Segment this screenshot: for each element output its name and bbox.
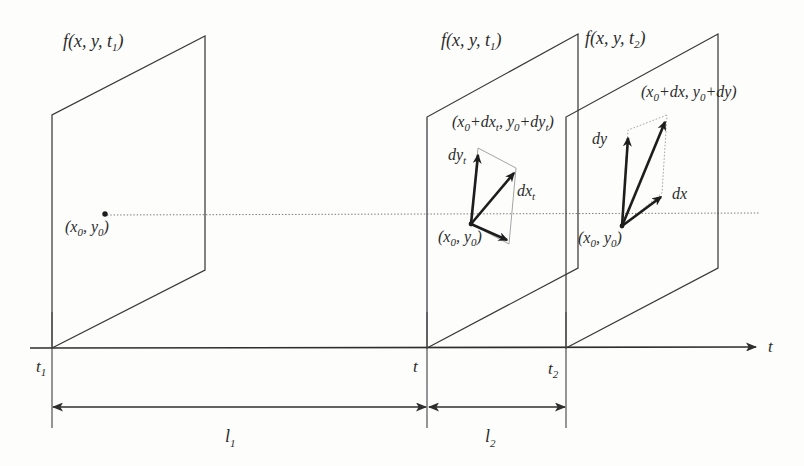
plane-t-group (427, 34, 578, 348)
diagram-canvas: f(x, y, t1) (x0, y0) f(x, y, t1) (x0+dxt… (0, 0, 804, 466)
plane-t2-outline (566, 34, 718, 348)
dimension-l2-label: l2 (485, 426, 496, 449)
plane-t1-outline (52, 36, 205, 348)
plane-t-origin-label: (x0, y0) (438, 228, 482, 248)
tick-label-t1: t1 (36, 357, 46, 378)
plane-t2-group (566, 34, 718, 348)
vector-resultant-t (471, 173, 514, 224)
plane-t-tip-label: (x0+dxt, y0+dyt) (452, 113, 554, 133)
plane-t1-origin-label: (x0, y0) (65, 218, 109, 238)
vector-dy-label: dy (592, 130, 608, 148)
plane-t2-origin-dot (620, 224, 625, 229)
vector-dy-t-label: dyt (448, 146, 467, 166)
tick-label-t2: t2 (548, 359, 559, 380)
plane-t-outline (427, 34, 578, 348)
plane-t2-origin-label: (x0, y0) (578, 229, 622, 249)
plane-t1-function-label: f(x, y, t1) (63, 31, 124, 53)
plane-t2-tip-label: (x0+dx, y0+dy) (641, 83, 737, 103)
time-axis-group (30, 312, 756, 428)
time-axis-line (30, 347, 756, 348)
time-axis-label: t (768, 337, 774, 356)
dimension-l1-label: l1 (225, 426, 236, 449)
figure-container: f(x, y, t1) (x0, y0) f(x, y, t1) (x0+dxt… (0, 0, 804, 466)
plane-t-origin-dot (469, 222, 474, 227)
vector-dx-t-label: dxt (517, 182, 536, 202)
tick-label-t: t (413, 357, 419, 376)
plane-t1-origin-dot (102, 211, 107, 216)
plane-t2-function-label: f(x, y, t2) (585, 28, 646, 50)
vector-dx-label: dx (672, 185, 687, 202)
plane-t-function-label: f(x, y, t1) (441, 30, 502, 52)
